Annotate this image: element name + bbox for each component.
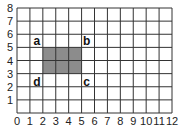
y-tick-label: 6 — [7, 28, 13, 40]
x-tick-label: 4 — [66, 115, 72, 127]
x-tick-label: 1 — [27, 115, 33, 127]
x-tick-label: 0 — [14, 115, 20, 127]
y-tick-label: 2 — [7, 81, 13, 93]
corner-label-d: d — [33, 75, 40, 89]
corner-label-b: b — [83, 34, 90, 48]
x-tick-label: 10 — [140, 115, 152, 127]
y-axis-ticks: 12345678 — [7, 2, 13, 106]
x-tick-label: 6 — [91, 115, 97, 127]
corner-label-c: c — [83, 75, 90, 89]
x-tick-label: 3 — [53, 115, 59, 127]
x-tick-label: 5 — [79, 115, 85, 127]
x-tick-label: 11 — [153, 115, 164, 127]
y-tick-label: 7 — [7, 15, 13, 27]
x-tick-label: 2 — [40, 115, 46, 127]
y-tick-label: 8 — [7, 2, 13, 14]
x-tick-label: 9 — [130, 115, 136, 127]
corner-label-a: a — [33, 34, 40, 48]
x-tick-label: 7 — [104, 115, 110, 127]
y-tick-label: 1 — [7, 94, 13, 106]
y-tick-label: 4 — [7, 55, 13, 67]
coordinate-grid: 0123456789101112 12345678 abcd — [0, 0, 185, 128]
x-axis-ticks: 0123456789101112 — [14, 115, 178, 127]
y-tick-label: 5 — [7, 41, 13, 53]
x-tick-label: 12 — [166, 115, 178, 127]
grid-lines — [17, 8, 172, 113]
x-tick-label: 8 — [117, 115, 123, 127]
y-tick-label: 3 — [7, 68, 13, 80]
